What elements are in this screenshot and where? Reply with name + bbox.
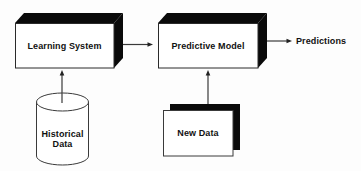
arrow-head-up <box>206 70 211 76</box>
learning-system-label: Learning System <box>15 23 114 68</box>
arrow-head-up <box>60 70 65 76</box>
predictive-model-box-top-face <box>158 13 267 23</box>
predictive-model-label: Predictive Model <box>158 23 258 68</box>
arrow-newdata-to-model <box>206 70 211 104</box>
arrow-head-right <box>287 39 293 44</box>
arrow-head-right <box>148 42 154 47</box>
arrow-learning-to-model <box>123 42 153 47</box>
historical-data-label: Historical Data <box>34 129 91 153</box>
new-data-label: New Data <box>163 110 233 156</box>
learning-system-box-top-face <box>15 13 123 23</box>
arrow-model-to-predictions <box>267 39 292 44</box>
predictions-label: Predictions <box>296 35 360 47</box>
ml-workflow-diagram: Learning System Predictive Model Histori… <box>0 0 361 171</box>
